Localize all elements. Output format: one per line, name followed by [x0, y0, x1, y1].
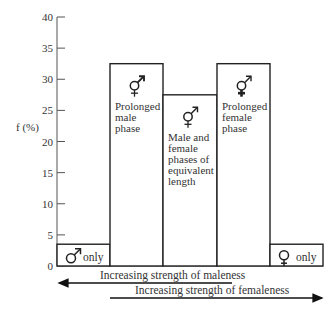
bars: onlyProlongedmalephaseMale andfemalephas…	[57, 64, 323, 267]
y-tick-label: 35	[42, 42, 54, 54]
bar-1: only	[57, 244, 110, 266]
bar-5: only	[270, 244, 323, 266]
y-tick-label: 15	[42, 167, 54, 179]
femaleness-arrow-label: Increasing strength of femaleness	[135, 284, 290, 297]
y-tick-label: 40	[42, 11, 54, 23]
bar-label-line: length	[168, 175, 196, 187]
y-tick-label: 25	[42, 104, 54, 116]
maleness-arrow-label: Increasing strength of maleness	[100, 269, 246, 282]
bar-3: Male andfemalephases ofequivalentlength	[163, 95, 217, 266]
y-tick-label: 0	[48, 260, 54, 272]
chart: 0510152025303540 f (%) onlyProlongedmale…	[0, 0, 334, 310]
y-tick-label: 5	[48, 229, 54, 241]
bar-label-line: phase	[222, 122, 247, 134]
y-tick-label: 10	[42, 198, 54, 210]
y-tick-label: 20	[42, 136, 54, 148]
bar-label: only	[83, 251, 104, 264]
bar-label: only	[296, 251, 317, 264]
bar-2: Prolongedmalephase	[110, 64, 163, 266]
y-axis-label: f (%)	[16, 121, 39, 134]
y-ticks: 0510152025303540	[42, 11, 65, 272]
bar-label-line: phase	[115, 122, 140, 134]
bar-4: Prolongedfemalephase	[217, 64, 270, 266]
y-tick-label: 30	[42, 73, 54, 85]
